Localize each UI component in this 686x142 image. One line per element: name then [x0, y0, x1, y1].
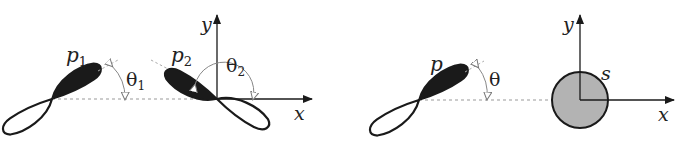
- theta-label: θ: [489, 68, 500, 90]
- p1-label: p1: [66, 43, 87, 69]
- p1-outline-lobe: [0, 95, 58, 140]
- orbital-diagram: y x p1 θ1 p2 θ2 p: [0, 0, 686, 142]
- y-axis-label: y: [200, 13, 212, 35]
- p2-label: p2: [171, 43, 192, 69]
- p2-outline-lobe: [214, 88, 273, 133]
- p2-dark-lobe: [161, 65, 220, 110]
- x-axis-label-right: x: [658, 103, 669, 125]
- p1-orbital: [0, 58, 108, 139]
- x-axis-label: x: [294, 102, 305, 124]
- p-outline-lobe: [366, 96, 425, 141]
- panel-left: y x p1 θ1 p2 θ2: [0, 13, 312, 140]
- p-orbital: [363, 59, 476, 140]
- theta1-label: θ1: [126, 68, 145, 93]
- panel-right: p θ s y x: [363, 13, 674, 141]
- theta-arc: [478, 67, 487, 99]
- p2-direction-dashed: [151, 60, 170, 70]
- theta2-label: θ2: [226, 54, 245, 79]
- theta1-arc: [112, 66, 125, 99]
- p-label: p: [430, 52, 443, 76]
- y-axis-label-right: y: [562, 13, 574, 35]
- s-label: s: [601, 62, 611, 84]
